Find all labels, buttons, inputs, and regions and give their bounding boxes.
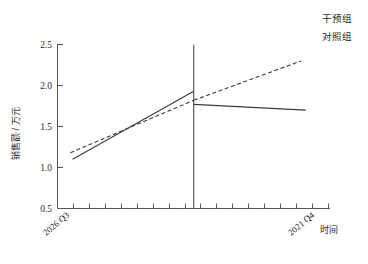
chart-container: 2.5 2.0 1.5 1.0 0.5	[0, 0, 368, 264]
legend-entry-intervention: 干预组	[322, 13, 352, 24]
x-axis-title: 时间	[320, 224, 338, 235]
y-tick-label: 0.5	[40, 204, 52, 214]
y-tick-label: 1.0	[40, 163, 52, 173]
legend-entry-control: 对照组	[322, 31, 352, 42]
y-tick-label: 2.5	[40, 40, 52, 50]
line-chart-canvas: 2.5 2.0 1.5 1.0 0.5	[0, 0, 368, 264]
y-tick-label: 1.5	[40, 122, 52, 132]
y-tick-label: 2.0	[40, 81, 52, 91]
y-axis-title: 销售额 / 万元	[10, 107, 21, 160]
